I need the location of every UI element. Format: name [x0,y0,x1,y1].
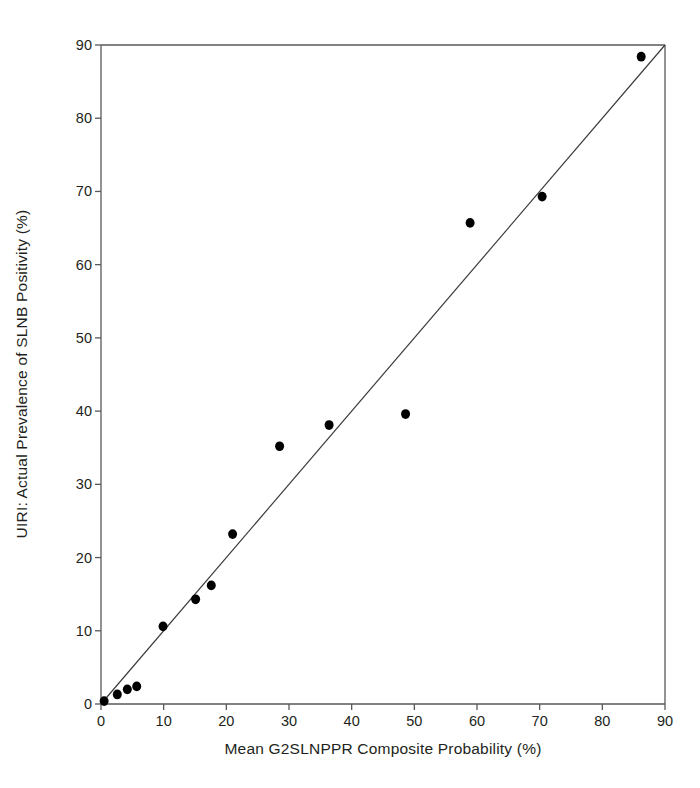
y-axis-tick-labels: 0102030405060708090 [52,0,92,788]
y-tick-label: 90 [58,38,92,53]
x-tick-label: 70 [520,714,560,729]
scatter-plot-figure: 0102030405060708090 0102030405060708090 … [0,0,700,788]
scatter-data-points [100,52,646,706]
identity-line [101,45,665,704]
y-tick-label: 10 [58,624,92,639]
y-tick-label: 60 [58,258,92,273]
scatter-point [100,696,109,706]
y-tick-label: 30 [58,477,92,492]
x-axis-tick-labels: 0102030405060708090 [0,714,700,738]
x-tick-label: 60 [457,714,497,729]
y-tick-label: 20 [58,551,92,566]
x-tick-label: 40 [332,714,372,729]
scatter-point [275,441,284,451]
plot-canvas [0,0,700,788]
x-tick-label: 80 [582,714,622,729]
x-tick-label: 0 [81,714,121,729]
scatter-point [228,529,237,539]
y-axis-title: UIRI: Actual Prevalence of SLNB Positivi… [0,44,44,704]
scatter-point [466,218,475,228]
x-axis-title: Mean G2SLNPPR Composite Probability (%) [101,740,665,758]
y-tick-label: 0 [58,697,92,712]
x-axis-tick-marks [101,704,665,710]
scatter-point [132,682,141,692]
y-tick-label: 70 [58,184,92,199]
y-tick-label: 80 [58,111,92,126]
x-tick-label: 90 [645,714,685,729]
scatter-point [538,192,547,202]
scatter-point [637,52,646,62]
x-tick-label: 20 [206,714,246,729]
x-tick-label: 50 [394,714,434,729]
scatter-point [207,581,216,591]
identity-reference-line [101,45,665,704]
scatter-point [113,690,122,700]
scatter-point [401,409,410,419]
x-tick-label: 10 [144,714,184,729]
y-tick-label: 40 [58,404,92,419]
scatter-point [123,684,132,694]
scatter-point [191,594,200,604]
y-tick-label: 50 [58,331,92,346]
scatter-point [325,420,334,430]
y-axis-tick-marks [95,45,101,704]
x-tick-label: 30 [269,714,309,729]
scatter-point [159,622,168,632]
